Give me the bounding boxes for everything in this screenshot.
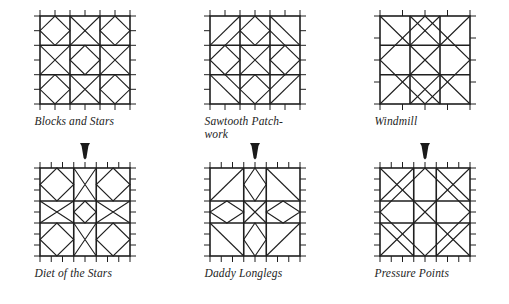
quilt-diagram-diet-of-the-stars: [26, 160, 144, 264]
figure-caption: Pressure Points: [375, 267, 479, 280]
figure-windmill: Windmill: [340, 8, 509, 128]
figure-blocks-and-stars: Blocks and Stars: [0, 8, 169, 128]
quilt-diagram-daddy-longlegs: [196, 160, 314, 264]
tick-marks: [34, 162, 136, 262]
figure-caption: Daddy Longlegs: [205, 267, 309, 280]
quilt-diagram-blocks-and-stars: [26, 8, 144, 112]
figure-caption: Windmill: [375, 115, 479, 128]
figure-pressure-points: Pressure Points: [340, 160, 509, 280]
quilt-diagram-pressure-points: [366, 160, 484, 264]
arrow-blocks-to-diet: [0, 142, 169, 160]
figure-daddy-longlegs: Daddy Longlegs: [170, 160, 339, 280]
figure-diet-of-the-stars: Diet of the Stars: [0, 160, 169, 280]
quilt-diagram-windmill: [366, 8, 484, 112]
quilt-diagram-sawtooth-patchwork: [196, 8, 314, 112]
figure-caption: Diet of the Stars: [35, 267, 139, 280]
quilt-pattern-sheet: Blocks and Stars: [0, 0, 509, 304]
figure-caption: Sawtooth Patch- work: [205, 115, 309, 140]
arrow-windmill-to-pressure: [340, 142, 509, 160]
arrow-sawtooth-to-daddy: [170, 142, 339, 160]
figure-sawtooth-patchwork: Sawtooth Patch- work: [170, 8, 339, 140]
figure-caption: Blocks and Stars: [35, 115, 139, 128]
tick-marks: [34, 10, 136, 110]
